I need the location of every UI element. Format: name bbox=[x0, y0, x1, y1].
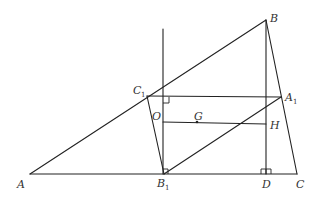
label-D: D bbox=[261, 178, 271, 191]
label-A: A bbox=[16, 178, 25, 191]
segment-OH bbox=[163, 122, 266, 124]
label-B1-subscript: 1 bbox=[165, 184, 169, 192]
right-angle-mark-C1A1 bbox=[163, 97, 169, 103]
label-H: H bbox=[269, 119, 280, 132]
geometry-diagram: A B C D O G H A 1 B 1 C 1 bbox=[0, 0, 320, 201]
segment-B1A1 bbox=[164, 97, 281, 174]
label-C: C bbox=[296, 178, 305, 191]
segment-C1B1 bbox=[147, 96, 164, 174]
label-C1-subscript: 1 bbox=[141, 91, 145, 99]
label-O: O bbox=[152, 110, 161, 123]
label-A1: A bbox=[284, 91, 293, 104]
label-G: G bbox=[194, 110, 203, 123]
label-B: B bbox=[269, 12, 278, 25]
segment-C1A1 bbox=[147, 96, 281, 97]
label-B1: B bbox=[156, 177, 165, 190]
label-A1-subscript: 1 bbox=[293, 98, 297, 106]
